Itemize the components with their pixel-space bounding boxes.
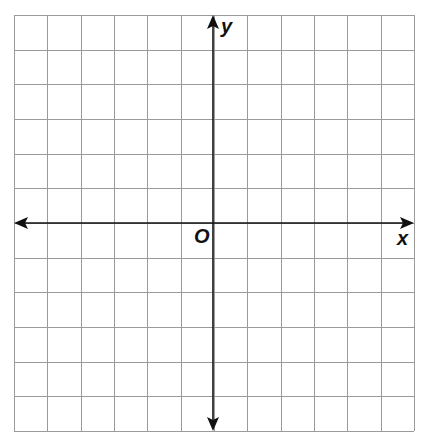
coordinate-plane [0, 0, 428, 446]
origin-label: O [194, 226, 210, 246]
y-axis-label: y [221, 16, 232, 36]
x-axis-label: x [397, 228, 408, 248]
